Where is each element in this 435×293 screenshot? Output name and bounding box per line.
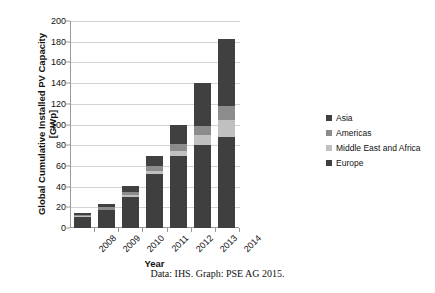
bar-segment-middle-east-and-africa <box>218 120 235 137</box>
y-axis-tick <box>65 103 70 104</box>
y-axis-tick <box>65 21 70 22</box>
bar-segment-europe <box>74 217 91 228</box>
legend-swatch-icon <box>326 145 332 151</box>
bar-segment-asia <box>194 83 211 125</box>
x-axis-tick <box>142 228 143 232</box>
x-axis-tick-label: 2009 <box>121 233 142 254</box>
y-axis-tick <box>65 186 70 187</box>
bar-series-container <box>70 21 239 228</box>
bar-segment-asia <box>146 156 163 166</box>
bar-segment-europe <box>98 210 115 228</box>
bar-segment-americas <box>170 144 187 151</box>
bar-segment-europe <box>122 197 139 228</box>
x-axis-tick <box>191 228 192 232</box>
figure-caption: Data: IHS. Graph: PSE AG 2015. <box>0 268 435 279</box>
legend-label: Americas <box>336 128 371 138</box>
y-axis-title-wrapper: Global Cumulative Installed PV Capacity … <box>6 18 40 230</box>
bar-2014 <box>218 39 235 228</box>
y-axis-tick <box>65 83 70 84</box>
chart-figure: Global Cumulative Installed PV Capacity … <box>0 0 435 293</box>
legend-item: Americas <box>326 125 434 140</box>
bar-2010 <box>122 186 139 228</box>
x-axis-tick-label: 2011 <box>169 233 190 254</box>
x-axis-tick <box>118 228 119 232</box>
x-axis-tick-label: 2014 <box>242 233 263 254</box>
x-axis-tick-label: 2012 <box>194 233 215 254</box>
y-axis-tick-label: 160 <box>51 57 66 67</box>
y-axis-tick <box>65 228 70 229</box>
bar-2011 <box>146 156 163 228</box>
y-axis-tick-label: 100 <box>51 120 66 130</box>
bar-segment-asia <box>170 125 187 145</box>
legend-label: Europe <box>336 158 363 168</box>
chart-legend: AsiaAmericasMiddle East and AfricaEurope <box>326 110 434 170</box>
x-axis-tick <box>94 228 95 232</box>
x-axis-tick <box>239 228 240 232</box>
bar-segment-americas <box>218 106 235 120</box>
legend-swatch-icon <box>326 160 332 166</box>
bar-segment-americas <box>194 126 211 135</box>
x-axis-tick-label: 2008 <box>97 233 118 254</box>
bar-2012 <box>170 125 187 228</box>
y-axis-tick-label: 200 <box>51 16 66 26</box>
bar-segment-europe <box>170 156 187 228</box>
y-axis-tick <box>65 41 70 42</box>
y-axis-tick <box>65 145 70 146</box>
legend-item: Asia <box>326 110 434 125</box>
bar-segment-europe <box>194 145 211 228</box>
y-axis-tick <box>65 165 70 166</box>
y-axis-tick <box>65 207 70 208</box>
x-axis-tick-label: 2010 <box>145 233 166 254</box>
y-axis-tick-label: 120 <box>51 99 66 109</box>
x-axis-tick <box>215 228 216 232</box>
x-axis-tick-label: 2013 <box>218 233 239 254</box>
bar-2009 <box>98 204 115 228</box>
y-axis-tick-label: 180 <box>51 37 66 47</box>
bar-2008 <box>74 213 91 229</box>
bar-2013 <box>194 83 211 228</box>
y-axis-tick <box>65 62 70 63</box>
legend-swatch-icon <box>326 130 332 136</box>
bar-segment-europe <box>218 137 235 228</box>
x-axis-tick <box>167 228 168 232</box>
legend-swatch-icon <box>326 115 332 121</box>
legend-label: Asia <box>336 113 353 123</box>
y-axis-tick-label: 140 <box>51 78 66 88</box>
bar-segment-asia <box>218 39 235 106</box>
bar-segment-middle-east-and-africa <box>194 135 211 145</box>
bar-segment-europe <box>146 174 163 228</box>
legend-label: Middle East and Africa <box>336 143 421 153</box>
legend-item: Europe <box>326 155 434 170</box>
legend-item: Middle East and Africa <box>326 140 434 155</box>
y-axis-tick <box>65 124 70 125</box>
